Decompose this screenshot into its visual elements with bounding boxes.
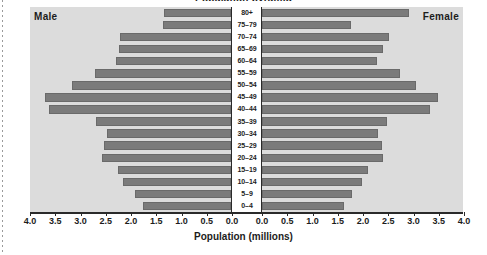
- male-bar: [104, 141, 231, 149]
- age-group-label: 30–34: [232, 128, 262, 140]
- chart-title: Population pyramid: [0, 0, 487, 1]
- male-bar: [118, 166, 231, 174]
- male-bar: [49, 105, 231, 113]
- male-bar: [116, 57, 231, 65]
- female-bar: [262, 93, 438, 101]
- male-bar: [72, 81, 231, 89]
- x-axis-title: Population (millions): [0, 231, 487, 242]
- age-group-label: 25–29: [232, 140, 262, 152]
- x-tick-label: 3.0: [407, 216, 420, 226]
- female-bar: [262, 33, 389, 41]
- x-tick-label: 1.0: [306, 216, 319, 226]
- age-group-label: 60–64: [232, 55, 262, 67]
- x-tick-label: 0.5: [281, 216, 294, 226]
- x-tick-label: 2.5: [99, 216, 112, 226]
- male-axis-spine: [231, 7, 232, 212]
- age-group-label: 55–59: [232, 67, 262, 79]
- x-tick-label: 2.0: [125, 216, 138, 226]
- age-group-label: 70–74: [232, 31, 262, 43]
- x-tick-label: 1.5: [331, 216, 344, 226]
- male-bar: [95, 69, 231, 77]
- male-bar: [120, 33, 231, 41]
- x-tick-label: 3.0: [74, 216, 87, 226]
- male-bar: [163, 21, 231, 29]
- male-bar: [123, 178, 231, 186]
- age-group-label: 50–54: [232, 79, 262, 91]
- female-bar: [262, 129, 378, 137]
- female-bar: [262, 202, 344, 210]
- female-bar: [262, 21, 351, 29]
- female-bar: [262, 45, 383, 53]
- male-bar: [135, 190, 231, 198]
- x-tick-label: 2.5: [382, 216, 395, 226]
- x-tick-label: 4.0: [458, 216, 471, 226]
- female-bar: [262, 141, 382, 149]
- age-group-label: 10–14: [232, 176, 262, 188]
- x-tick-label: 3.5: [49, 216, 62, 226]
- female-bar: [262, 166, 368, 174]
- female-bar: [262, 81, 416, 89]
- male-bar: [107, 129, 231, 137]
- male-bar: [102, 154, 231, 162]
- x-tick-label: 0.0: [226, 216, 239, 226]
- x-tick-label: 2.0: [357, 216, 370, 226]
- age-group-label: 65–69: [232, 43, 262, 55]
- x-tick-label: 0.0: [256, 216, 269, 226]
- age-group-label: 40–44: [232, 103, 262, 115]
- female-bar: [262, 190, 352, 198]
- x-tick-label: 1.5: [150, 216, 163, 226]
- female-bar: [262, 57, 377, 65]
- female-bar: [262, 69, 400, 77]
- male-bar: [164, 9, 231, 17]
- female-bar: [262, 105, 430, 113]
- female-bar: [262, 117, 387, 125]
- female-axis-spine: [261, 7, 262, 212]
- x-tick-label: 3.5: [432, 216, 445, 226]
- age-group-label: 80+: [232, 7, 262, 19]
- male-bar: [96, 117, 231, 125]
- female-bar: [262, 178, 362, 186]
- male-bar: [45, 93, 231, 101]
- age-group-label: 5–9: [232, 188, 262, 200]
- age-group-label: 35–39: [232, 116, 262, 128]
- population-pyramid-chart: Population pyramid Male Female 80+75–797…: [0, 0, 487, 255]
- female-bar: [262, 9, 409, 17]
- male-bar: [119, 45, 231, 53]
- age-group-label: 15–19: [232, 164, 262, 176]
- male-bar: [143, 202, 231, 210]
- female-bar: [262, 154, 383, 162]
- age-group-label: 45–49: [232, 91, 262, 103]
- x-tick-label: 1.0: [175, 216, 188, 226]
- age-group-label: 75–79: [232, 19, 262, 31]
- age-group-label: 20–24: [232, 152, 262, 164]
- x-tick-label: 0.5: [200, 216, 213, 226]
- age-group-label: 0–4: [232, 200, 262, 212]
- x-axis-line: [30, 212, 463, 214]
- x-tick-label: 4.0: [24, 216, 37, 226]
